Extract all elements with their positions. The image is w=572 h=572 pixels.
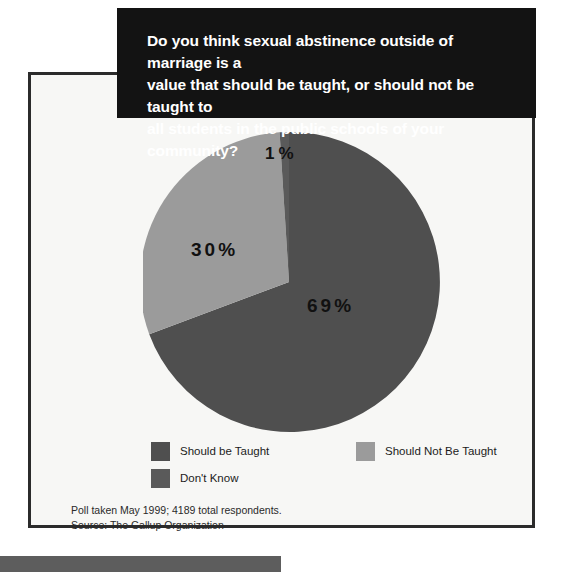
legend-swatch-icon bbox=[151, 442, 170, 461]
legend-swatch-icon bbox=[151, 469, 170, 488]
footnote-poll-info: Poll taken May 1999; 4189 total responde… bbox=[71, 503, 282, 518]
title-banner: Do you think sexual abstinence outside o… bbox=[117, 8, 536, 118]
pie-chart: 69% 30% 1% bbox=[143, 131, 443, 441]
page-title: Do you think sexual abstinence outside o… bbox=[147, 30, 510, 162]
legend-label: Don't Know bbox=[180, 473, 238, 485]
legend-item-should-not-be-taught: Should Not Be Taught bbox=[356, 442, 497, 461]
pie-chart-svg bbox=[143, 131, 443, 441]
pie-label-should-not-be-taught: 30% bbox=[191, 239, 238, 261]
footnote-source: Source: The Gallup Organization bbox=[71, 518, 282, 533]
legend-item-should-be-taught: Should be Taught bbox=[151, 442, 269, 461]
chart-footnote: Poll taken May 1999; 4189 total responde… bbox=[71, 503, 282, 533]
legend-item-dont-know: Don't Know bbox=[151, 469, 238, 488]
poll-chart-page: 69% 30% 1% Should be Taught Should Not B… bbox=[0, 0, 572, 572]
bottom-accent-bar bbox=[0, 556, 281, 572]
legend-swatch-icon bbox=[356, 442, 375, 461]
legend-label: Should Not Be Taught bbox=[385, 446, 497, 458]
pie-label-should-be-taught: 69% bbox=[307, 295, 354, 317]
legend-label: Should be Taught bbox=[180, 446, 269, 458]
